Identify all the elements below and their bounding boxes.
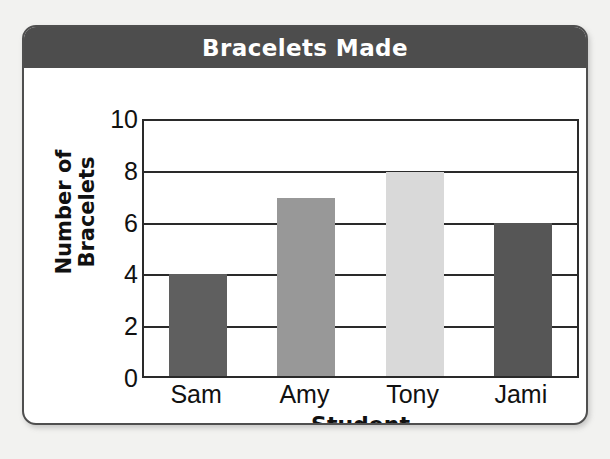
x-axis-tick-labels: SamAmyTonyJami: [142, 380, 579, 414]
y-axis-tick-labels: 10 8 6 4 2 0: [102, 119, 138, 378]
y-tick-label-2: 2: [102, 312, 138, 341]
x-axis-title: Student: [142, 412, 579, 425]
bars-layer: [144, 121, 577, 376]
x-tick-label-jami: Jami: [467, 380, 575, 409]
chart-card: Bracelets Made Number of Bracelets 10 8 …: [22, 25, 588, 425]
y-tick-label-4: 4: [102, 260, 138, 289]
y-axis-title-line-1: Number of: [53, 150, 76, 275]
x-tick-label-tony: Tony: [359, 380, 467, 409]
y-axis-title: Number of Bracelets: [50, 112, 102, 312]
y-tick-label-8: 8: [102, 156, 138, 185]
x-tick-label-amy: Amy: [250, 380, 358, 409]
bar-tony: [386, 172, 444, 376]
chart-title: Bracelets Made: [202, 35, 408, 61]
bar-sam: [169, 274, 227, 376]
plot-area: [142, 119, 579, 378]
bar-amy: [277, 198, 335, 377]
bar-jami: [494, 223, 552, 376]
y-tick-label-6: 6: [102, 208, 138, 237]
y-tick-label-10: 10: [102, 105, 138, 134]
chart-title-band: Bracelets Made: [24, 27, 586, 68]
y-axis-title-line-2: Bracelets: [76, 156, 99, 267]
y-tick-label-0: 0: [102, 364, 138, 393]
plot-region: Number of Bracelets 10 8 6 4 2 0 SamAmyT…: [24, 68, 588, 425]
x-tick-label-sam: Sam: [142, 380, 250, 409]
